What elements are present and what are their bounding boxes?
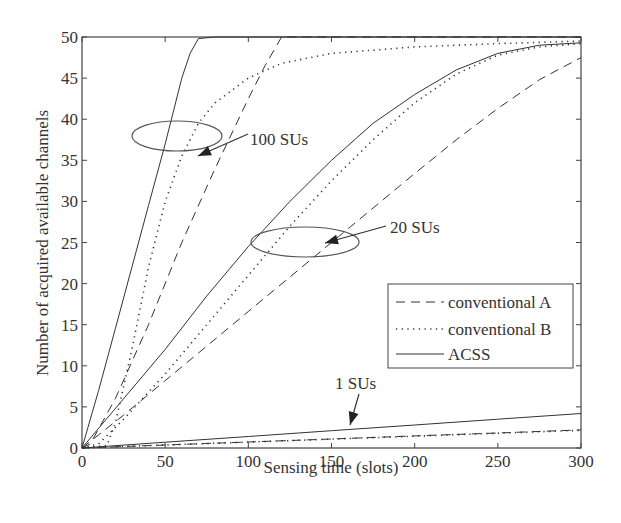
legend-label-conventional-a: conventional A (448, 293, 552, 312)
y-tick-label: 25 (61, 234, 78, 253)
annotation-ellipse-20 (251, 227, 359, 257)
x-axis-label: Sensing time (slots) (263, 458, 398, 477)
annotations: 100 SUs 20 SUs 1 SUs (132, 121, 440, 425)
y-tick-label: 5 (70, 398, 79, 417)
y-tick-label: 15 (61, 316, 78, 335)
y-tick-label: 45 (61, 69, 78, 88)
y-tick-label: 50 (61, 28, 78, 47)
x-tick-label: 250 (485, 452, 511, 471)
y-tick-label: 40 (61, 110, 78, 129)
y-tick-label: 35 (61, 151, 78, 170)
annotation-ellipse-100 (132, 121, 222, 151)
y-tick-label: 0 (70, 439, 79, 458)
plot-area: 05010015020025030005101520253035404550 (61, 28, 594, 471)
annotation-label-100: 100 SUs (250, 130, 308, 149)
x-tick-label: 50 (157, 452, 174, 471)
x-tick-label: 300 (568, 452, 594, 471)
legend: conventional A conventional B ACSS (388, 284, 573, 368)
legend-label-acss: ACSS (448, 345, 491, 364)
arrowhead (349, 411, 359, 425)
x-tick-label: 100 (236, 452, 262, 471)
arrowhead (325, 235, 339, 245)
y-tick-label: 30 (61, 192, 78, 211)
series-acss-1-sus (82, 414, 581, 449)
legend-label-conventional-b: conventional B (448, 320, 551, 339)
line-chart: 05010015020025030005101520253035404550 1… (0, 0, 621, 523)
annotation-label-20: 20 SUs (390, 218, 440, 237)
x-tick-label: 200 (402, 452, 428, 471)
y-tick-label: 10 (61, 357, 78, 376)
series-conventional-a-20-sus (82, 58, 581, 448)
annotation-label-1: 1 SUs (335, 374, 376, 393)
x-tick-label: 0 (78, 452, 87, 471)
y-tick-label: 20 (61, 275, 78, 294)
y-axis-label: Number of acquired available channels (33, 110, 52, 376)
